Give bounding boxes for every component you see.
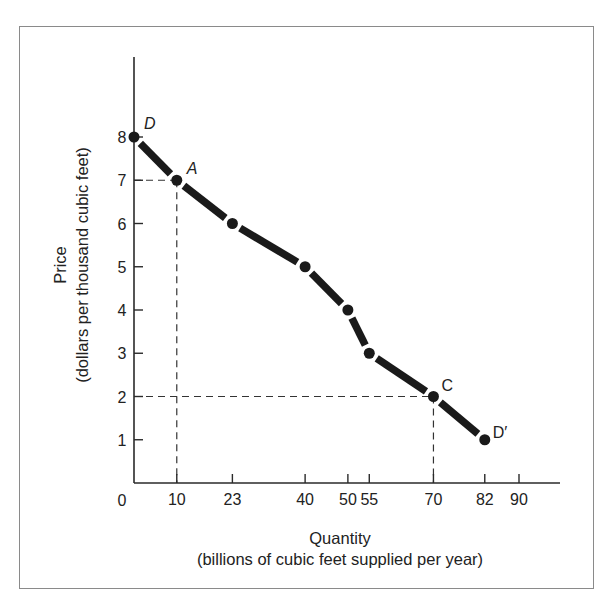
data-point: [300, 261, 311, 272]
x-tick-label: 50: [339, 491, 357, 508]
y-axis-title: Price: [51, 246, 69, 284]
y-tick-label: 3: [118, 345, 127, 362]
curve-segment: [377, 358, 426, 391]
x-axis-title: Quantity: [309, 529, 371, 547]
y-axis-subtitle: (dollars per thousand cubic feet): [73, 147, 91, 383]
curve-segment: [352, 318, 365, 345]
y-tick-label: 8: [118, 129, 127, 146]
point-label-C: C: [441, 377, 453, 394]
y-tick-label: 2: [118, 389, 127, 406]
data-point: [129, 132, 140, 143]
curve-segment: [184, 186, 225, 218]
demand-chart: 123456781023405055708290 DACD′ 0 Quantit…: [0, 0, 612, 604]
x-tick-label: 10: [168, 491, 186, 508]
x-tick-label: 82: [476, 491, 494, 508]
point-label-D-prime: D′: [493, 424, 508, 441]
curve-segment: [440, 402, 478, 434]
point-labels: DACD′: [144, 115, 507, 441]
data-point: [171, 175, 182, 186]
x-tick-label: 90: [510, 491, 528, 508]
y-tick-label: 7: [118, 172, 127, 189]
y-tick-label: 4: [118, 302, 127, 319]
y-tick-label: 5: [118, 259, 127, 276]
x-tick-label: 70: [425, 491, 443, 508]
axes: [134, 57, 560, 483]
y-tick-label: 1: [118, 432, 127, 449]
curve-segment: [140, 143, 170, 173]
data-point: [342, 305, 353, 316]
point-label-D: D: [144, 115, 156, 132]
curve-segment: [311, 273, 341, 303]
origin-label: 0: [118, 492, 127, 509]
data-points: [129, 132, 491, 446]
ticks: 123456781023405055708290: [118, 129, 528, 508]
reference-lines: [134, 180, 433, 483]
data-point: [428, 391, 439, 402]
data-point: [364, 348, 375, 359]
x-tick-label: 55: [360, 491, 378, 508]
x-tick-label: 23: [223, 491, 241, 508]
curve-segment: [240, 228, 297, 262]
demand-curve: [140, 143, 478, 434]
x-tick-label: 40: [296, 491, 314, 508]
point-label-A: A: [186, 160, 198, 177]
y-tick-label: 6: [118, 216, 127, 233]
data-point: [479, 434, 490, 445]
data-point: [227, 218, 238, 229]
x-axis-subtitle: (billions of cubic feet supplied per yea…: [197, 550, 483, 568]
